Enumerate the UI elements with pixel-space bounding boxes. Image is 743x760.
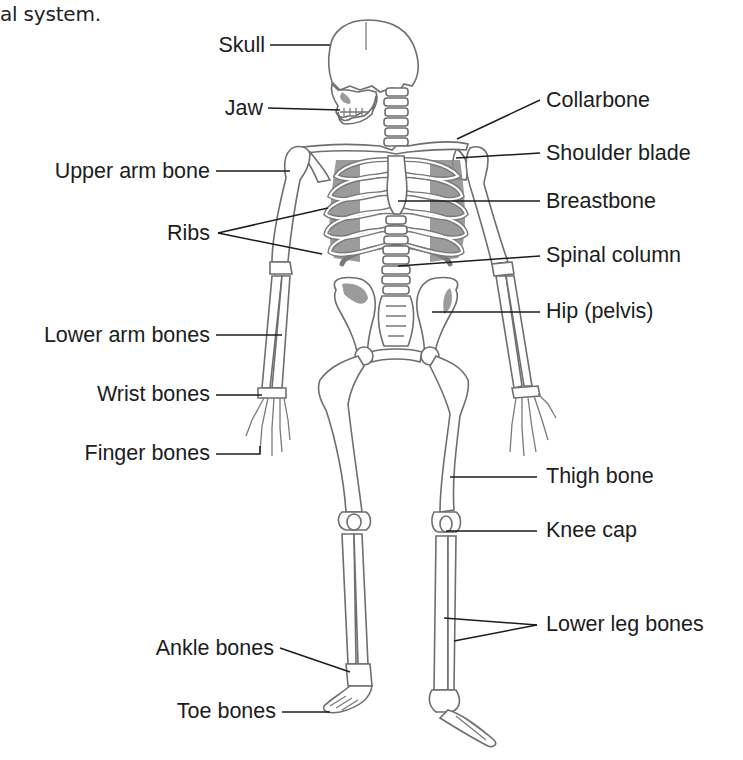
label-thigh-bone: Thigh bone (546, 466, 654, 488)
label-hip-pelvis: Hip (pelvis) (546, 301, 654, 323)
label-shoulder-blade: Shoulder blade (546, 143, 691, 165)
leader-jaw (268, 108, 340, 110)
leader-ribs-1 (218, 208, 328, 233)
label-finger-bones: Finger bones (85, 443, 211, 465)
label-jaw: Jaw (225, 98, 263, 120)
leader-spinal-column (398, 256, 540, 266)
leader-lower-leg-2 (454, 625, 537, 641)
leader-lines (0, 0, 743, 760)
label-ribs: Ribs (167, 223, 210, 245)
leader-ankle (280, 648, 350, 672)
label-lower-leg-bones: Lower leg bones (546, 614, 704, 636)
leader-ribs-2 (218, 233, 322, 254)
label-toe-bones: Toe bones (177, 701, 276, 723)
leader-finger (216, 446, 260, 454)
leader-collarbone (457, 100, 540, 139)
label-skull: Skull (218, 35, 265, 57)
label-breastbone: Breastbone (546, 191, 656, 213)
label-lower-arm-bones: Lower arm bones (44, 325, 210, 347)
label-knee-cap: Knee cap (546, 520, 637, 542)
leader-lower-leg-1 (444, 618, 537, 625)
label-wrist-bones: Wrist bones (97, 384, 210, 406)
label-spinal-column: Spinal column (546, 245, 681, 267)
label-ankle-bones: Ankle bones (156, 638, 274, 660)
leader-shoulder-blade (456, 153, 540, 158)
label-collarbone: Collarbone (546, 90, 650, 112)
label-upper-arm-bone: Upper arm bone (55, 161, 210, 183)
